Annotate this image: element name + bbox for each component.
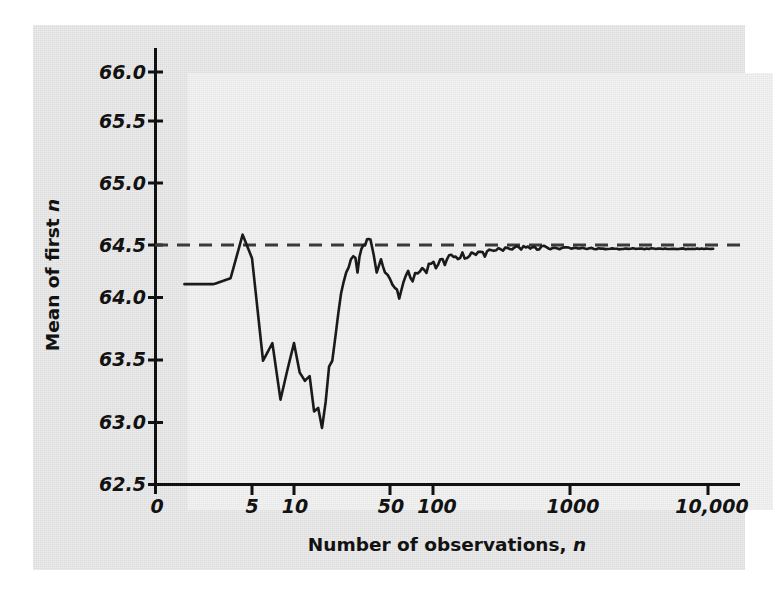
y-tick-label: 64.5 (99, 234, 146, 256)
x-tick-label: 1000 (547, 495, 600, 517)
y-tick-label: 63.0 (99, 411, 146, 433)
x-axis-title-variable: n (573, 534, 586, 555)
x-tick-label: 100 (417, 495, 457, 517)
running-mean-line (184, 235, 713, 428)
axis-lines (155, 48, 740, 486)
y-axis-title-variable: n (42, 199, 63, 212)
screenshot-root: 62.5 63.0 63.5 64.0 64.5 65.0 65.5 66.0 … (0, 0, 781, 597)
y-tick-label: 65.5 (99, 110, 146, 132)
x-axis-title: Number of observations, n (308, 534, 586, 555)
x-tick-label: 10 (282, 495, 308, 517)
y-axis-title-prefix: Mean of first (42, 212, 63, 351)
y-tick-label: 64.0 (99, 286, 146, 308)
y-tick-label: 62.5 (99, 473, 146, 495)
line-chart: 62.5 63.0 63.5 64.0 64.5 65.0 65.5 66.0 … (0, 0, 781, 597)
y-axis-title: Mean of first n (42, 199, 63, 352)
x-tick-label: 0 (150, 495, 163, 517)
y-tick-label: 65.0 (99, 172, 146, 194)
y-tick-label: 66.0 (99, 61, 146, 83)
y-axis-tick-labels: 62.5 63.0 63.5 64.0 64.5 65.0 65.5 66.0 (99, 61, 146, 495)
x-tick-label: 50 (378, 495, 404, 517)
x-axis-tick-labels: 0 5 10 50 100 1000 10,000 (150, 495, 748, 517)
y-tick-label: 63.5 (99, 348, 146, 370)
x-tick-label: 10,000 (675, 495, 748, 517)
x-tick-label: 5 (245, 495, 258, 517)
x-axis-title-prefix: Number of observations, (308, 534, 573, 555)
